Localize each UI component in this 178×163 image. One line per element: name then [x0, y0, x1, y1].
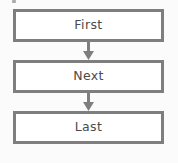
flow-node-last-label: Last: [75, 121, 103, 134]
arrow-down-icon-next-to-last: [82, 92, 95, 111]
flow-node-last[interactable]: Last: [13, 111, 164, 144]
arrow-down-icon-first-to-next: [82, 41, 95, 60]
flow-node-next-label: Next: [73, 70, 104, 83]
flow-node-first-label: First: [74, 19, 102, 32]
flowchart-diagram: First Next Last: [0, 0, 178, 163]
flow-node-next[interactable]: Next: [13, 60, 164, 93]
scan-speck: [12, 0, 16, 3]
flow-node-first[interactable]: First: [13, 9, 164, 42]
